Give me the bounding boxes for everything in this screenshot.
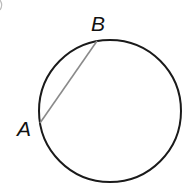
point-a-label: A [17,118,31,139]
point-b-label: B [91,13,105,34]
cropped-edge-mark [0,0,2,10]
circle-chord-diagram: B A [0,0,189,196]
circle [39,40,181,182]
